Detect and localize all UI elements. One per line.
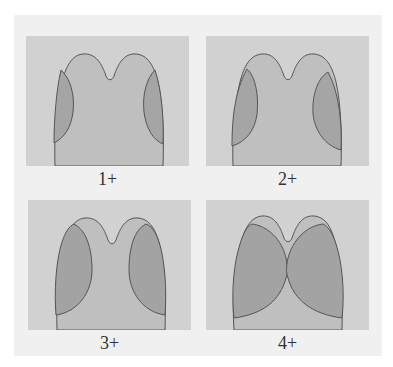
tonsil-diagram-grade-4 xyxy=(206,200,369,330)
panel-grade-1 xyxy=(26,36,189,166)
tonsil-diagram-grade-3 xyxy=(28,200,191,330)
grade-label-2: 2+ xyxy=(206,170,369,188)
panel-grade-4 xyxy=(206,200,369,330)
tonsil-diagram-grade-2 xyxy=(206,36,369,166)
tonsil-diagram-grade-1 xyxy=(26,36,189,166)
grade-label-3: 3+ xyxy=(28,334,191,352)
grade-label-4: 4+ xyxy=(206,334,369,352)
panel-grade-3 xyxy=(28,200,191,330)
panel-grade-2 xyxy=(206,36,369,166)
grade-label-1: 1+ xyxy=(26,170,189,188)
